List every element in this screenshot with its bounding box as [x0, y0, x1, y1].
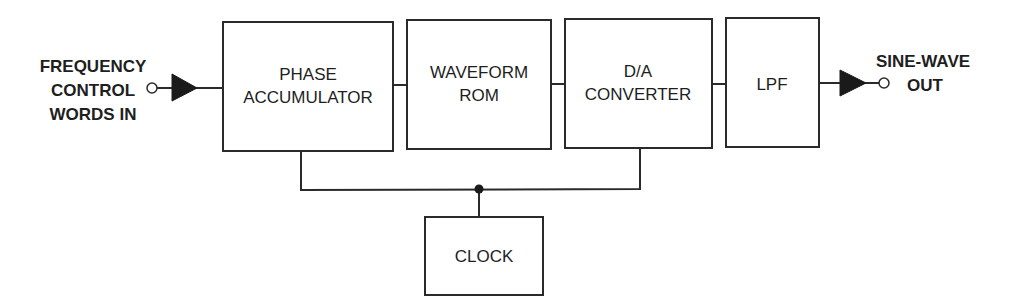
waveform-rom-label-2: ROM — [459, 86, 499, 105]
output-port-icon — [879, 78, 889, 88]
lpf-label: LPF — [756, 75, 787, 94]
output-label-line-1: SINE-WAVE — [876, 52, 970, 71]
output-label: SINE-WAVE OUT — [876, 52, 970, 95]
input-label-line-1: FREQUENCY — [40, 57, 147, 76]
phase-accumulator-block: PHASE ACCUMULATOR — [223, 22, 393, 151]
phase-accumulator-label-1: PHASE — [279, 65, 337, 84]
clock-block: CLOCK — [425, 217, 543, 295]
output-label-line-2: OUT — [907, 76, 944, 95]
dds-block-diagram: FREQUENCY CONTROL WORDS IN PHASE ACCUMUL… — [0, 0, 1011, 308]
input-label-line-2: CONTROL — [51, 81, 135, 100]
lpf-block: LPF — [726, 18, 819, 147]
clock-bus — [301, 148, 640, 190]
output-arrow-icon — [840, 70, 866, 96]
da-converter-block: D/A CONVERTER — [565, 19, 712, 148]
phase-accumulator-label-2: ACCUMULATOR — [243, 88, 373, 107]
clock-label: CLOCK — [455, 247, 514, 266]
da-converter-label-2: CONVERTER — [585, 85, 691, 104]
input-port-icon — [147, 83, 157, 93]
da-converter-label-1: D/A — [624, 62, 653, 81]
junction-dot-icon — [475, 185, 484, 194]
input-label: FREQUENCY CONTROL WORDS IN — [40, 57, 147, 124]
input-arrow-icon — [172, 74, 197, 101]
waveform-rom-block: WAVEFORM ROM — [407, 20, 551, 149]
waveform-rom-label-1: WAVEFORM — [430, 63, 528, 82]
input-label-line-3: WORDS IN — [50, 105, 137, 124]
